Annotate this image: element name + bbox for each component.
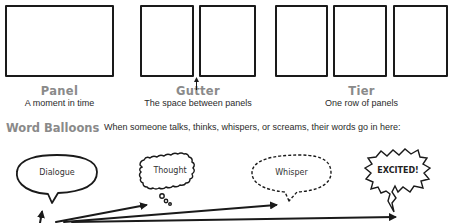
whisper-balloon-icon [252, 155, 331, 201]
diagram-shapes [0, 0, 451, 223]
dialogue-balloon-icon [17, 155, 97, 203]
excited-balloon-icon [365, 149, 430, 212]
whisper-balloon-label: Whisper [252, 168, 331, 177]
thought-balloon-icon [140, 153, 195, 205]
dialogue-balloon-label: Dialogue [17, 168, 97, 177]
excited-balloon-label: EXCITED! [366, 166, 430, 175]
thought-balloon-label: Thought [140, 166, 200, 175]
balloon-pointer-arrows [40, 205, 395, 223]
gutter-pointer-arrow-icon [194, 77, 199, 90]
